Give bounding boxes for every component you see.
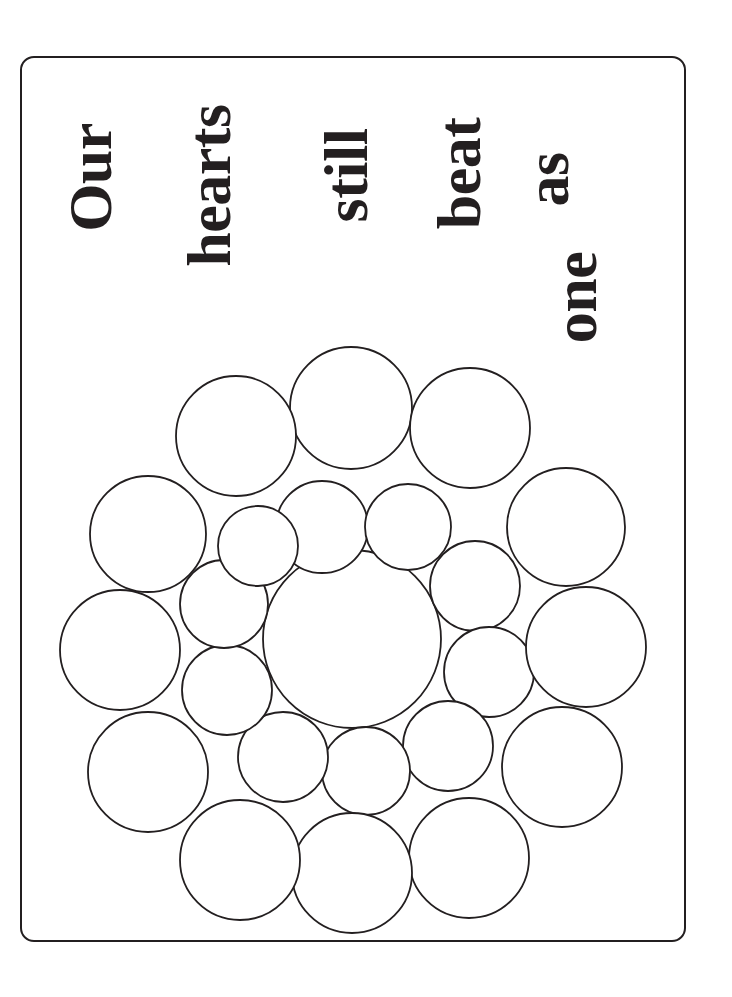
mandala-circle-outer-10 xyxy=(60,590,180,710)
mandala-circle-inner-2 xyxy=(365,484,451,570)
mandala-circle-outer-7 xyxy=(292,813,412,933)
mandala-circle-inner-10 xyxy=(218,506,298,586)
mandala-circle-outer-9 xyxy=(88,712,208,832)
mandala-circle-outer-4 xyxy=(526,587,646,707)
circle-mandala-artwork xyxy=(0,0,732,997)
mandala-circle-outer-12 xyxy=(176,376,296,496)
mandala-circle-outer-11 xyxy=(90,476,206,592)
mandala-circle-group xyxy=(60,347,646,933)
mandala-circle-outer-3 xyxy=(507,468,625,586)
greeting-card-page: Our hearts still beat as one xyxy=(0,0,732,997)
mandala-circle-inner-3 xyxy=(430,541,520,631)
mandala-circle-outer-8 xyxy=(180,800,300,920)
mandala-circle-outer-2 xyxy=(410,368,530,488)
mandala-circle-outer-6 xyxy=(409,798,529,918)
mandala-circle-inner-8 xyxy=(182,645,272,735)
mandala-circle-inner-5 xyxy=(403,701,493,791)
mandala-circle-inner-6 xyxy=(322,727,410,815)
mandala-circle-outer-5 xyxy=(502,707,622,827)
mandala-circle-outer-1 xyxy=(290,347,412,469)
mandala-circle-center xyxy=(263,550,441,728)
